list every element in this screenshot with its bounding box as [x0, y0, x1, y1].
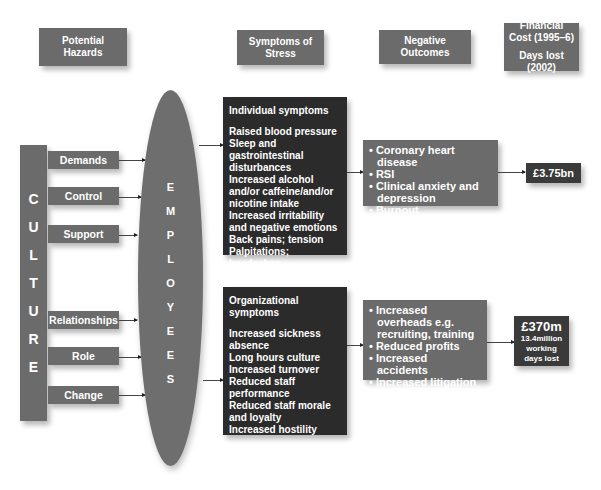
header-line: Cost (1995–6) — [509, 32, 574, 44]
outcome-item: • Increased accidents — [369, 352, 481, 376]
header-line: Negative — [404, 35, 446, 47]
culture-letter: T — [29, 269, 38, 297]
individual-symptoms-box: Individual symptoms Raised blood pressur… — [223, 97, 347, 255]
symptom-item: Long hours culture — [229, 352, 341, 364]
employees-letter: P — [167, 223, 174, 247]
header-line: Potential — [62, 35, 104, 47]
culture-letter: U — [28, 213, 38, 241]
header-line: Stress — [265, 48, 296, 60]
hazard-support: Support — [48, 225, 119, 243]
symptom-item: Back pains; tension — [229, 234, 341, 246]
culture-letter: R — [28, 325, 38, 353]
organizational-cost-box: £370m 13.4million working days lost — [514, 316, 569, 366]
outcome-item: • Clinical anxiety and depression — [369, 180, 492, 204]
individual-symptoms-title: Individual symptoms — [229, 105, 341, 117]
symptom-item: Sleep and gastrointestinal disturbances — [229, 138, 341, 174]
arrow — [119, 160, 145, 161]
culture-letter: L — [29, 241, 38, 269]
organizational-symptoms-title: Organizational symptoms — [229, 295, 341, 319]
outcome-item: • Increased overheads e.g. recruiting, t… — [369, 304, 481, 340]
culture-letter: C — [28, 185, 38, 213]
header-negative-outcomes: Negative Outcomes — [379, 30, 471, 64]
symptom-item: Increased sickness absence — [229, 328, 341, 352]
arrow — [347, 172, 363, 173]
symptom-item: Increased hostility — [229, 424, 341, 436]
employees-letter: O — [166, 271, 175, 295]
arrow — [487, 342, 514, 343]
organizational-symptoms-box: Organizational symptoms Increased sickne… — [223, 287, 347, 435]
outcome-item: • Reduced profits — [369, 340, 481, 352]
header-line: Days lost (2002) — [504, 50, 579, 74]
days-lost-line: 13.4million — [521, 334, 562, 344]
outcome-item: • Coronary heart disease — [369, 144, 492, 168]
hazard-demands: Demands — [48, 151, 119, 169]
individual-cost: £3.75bn — [526, 163, 581, 183]
culture-bar: C U L T U R E — [20, 145, 47, 421]
outcome-item: • Increased litigation — [369, 376, 481, 388]
employees-letter: M — [166, 199, 175, 223]
hazard-role: Role — [48, 347, 119, 365]
employees-letter: E — [167, 343, 174, 367]
symptom-item: Raised blood pressure — [229, 126, 341, 138]
header-line: Hazards — [64, 47, 103, 59]
header-symptoms-of-stress: Symptoms of Stress — [237, 30, 324, 65]
arrow — [199, 145, 223, 146]
individual-outcomes-box: • Coronary heart disease • RSI • Clinica… — [363, 140, 498, 206]
hazard-relationships: Relationships — [48, 311, 119, 329]
symptom-item: Increased irritability and negative emot… — [229, 210, 341, 234]
employees-letter: E — [167, 319, 174, 343]
employees-letter: E — [167, 175, 174, 199]
hazard-change: Change — [48, 386, 119, 404]
arrow — [203, 380, 223, 381]
header-line: Symptoms of — [249, 36, 312, 48]
header-potential-hazards: Potential Hazards — [39, 28, 127, 66]
employees-letter: Y — [167, 295, 174, 319]
outcome-item: • Burnout — [369, 204, 492, 216]
symptom-item: Reduced staff performance — [229, 376, 341, 400]
days-lost-line: days lost — [524, 354, 559, 364]
culture-letter: U — [28, 297, 38, 325]
employees-letter: L — [167, 247, 174, 271]
employees-letter: S — [167, 367, 174, 391]
symptom-item: Increased alcohol and/or caffeine/and/or… — [229, 174, 341, 210]
header-line: Financial — [520, 20, 563, 32]
days-lost-line: working — [526, 344, 557, 354]
arrow — [119, 395, 145, 396]
arrow — [119, 320, 137, 321]
hazard-control: Control — [48, 187, 119, 205]
culture-letter: E — [29, 353, 38, 381]
symptom-item: Reduced staff morale and loyalty — [229, 400, 341, 424]
outcome-item: • RSI — [369, 168, 492, 180]
organizational-outcomes-box: • Increased overheads e.g. recruiting, t… — [363, 300, 487, 380]
symptom-item: Increased turnover — [229, 364, 341, 376]
arrow — [347, 345, 363, 346]
arrow — [119, 197, 141, 198]
organizational-cost: £370m — [521, 319, 561, 334]
header-financial-cost: Financial Cost (1995–6) Days lost (2002) — [504, 23, 579, 71]
arrow — [119, 235, 137, 236]
arrow — [498, 172, 525, 173]
header-line: Outcomes — [401, 47, 450, 59]
symptom-item: Palpitations; headaches — [229, 246, 341, 270]
employees-ellipse: E M P L O Y E E S — [138, 90, 203, 466]
arrow — [119, 357, 141, 358]
